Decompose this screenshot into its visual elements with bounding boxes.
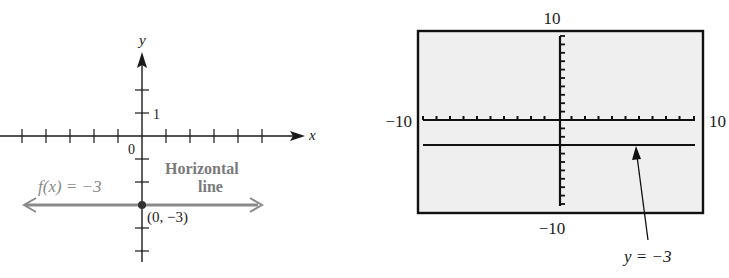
y-axis [135,52,149,262]
annotation-horizontal: Horizontal [165,160,239,177]
x-axis [0,129,305,143]
y-intercept-point [138,201,146,209]
y-tick-label-1: 1 [153,107,160,122]
point-label: (0, −3) [147,209,188,226]
ymin-label: −10 [539,219,566,238]
series-annotation-label: y = −3 [622,247,672,266]
ymax-label: 10 [544,9,561,28]
x-axis-label: x [308,127,316,143]
left-graph: y x 0 1 f(x) = −3 Horizontal line (0, −3… [0,32,316,262]
y-axis-label: y [137,32,146,48]
annotation-line: line [198,178,223,195]
xmin-label: −10 [385,112,412,131]
horizontal-line-series [24,198,262,212]
origin-label: 0 [128,142,135,157]
calculator-graph: 10 −10 −10 10 y = −3 [385,9,726,266]
function-label: f(x) = −3 [38,177,102,196]
xmax-label: 10 [709,112,726,131]
